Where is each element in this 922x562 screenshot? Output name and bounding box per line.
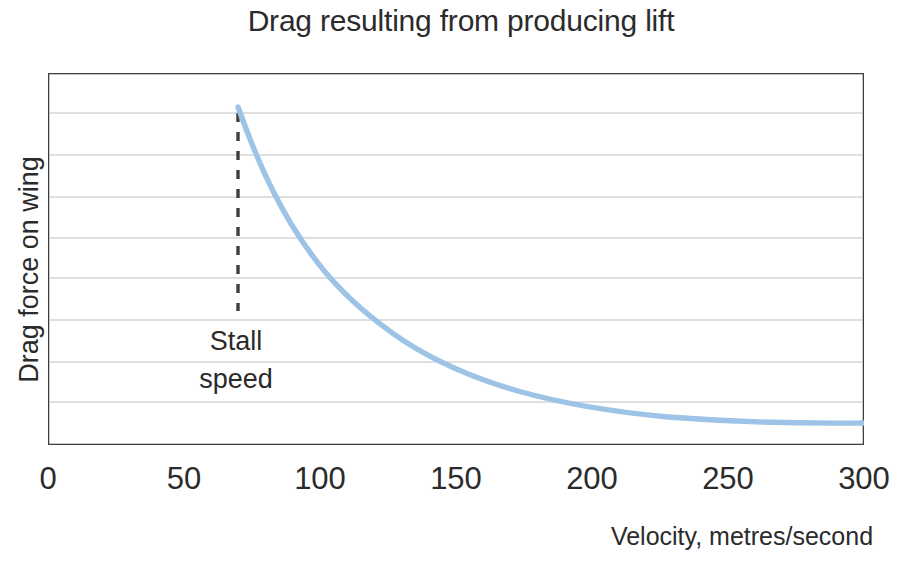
x-tick-label-250: 250 <box>668 461 788 497</box>
x-tick-label-200: 200 <box>532 461 652 497</box>
chart-figure: Drag resulting from producing lift Drag … <box>0 0 922 562</box>
y-axis-title: Drag force on wing <box>14 90 45 450</box>
chart-title: Drag resulting from producing lift <box>0 4 922 38</box>
stall-speed-label-line1: Stall <box>158 322 314 360</box>
stall-speed-label-line2: speed <box>158 360 314 398</box>
stall-speed-annotation: Stall speed <box>158 322 314 399</box>
x-tick-label-100: 100 <box>260 461 380 497</box>
x-tick-label-0: 0 <box>0 461 108 497</box>
x-tick-label-150: 150 <box>396 461 516 497</box>
x-tick-label-300: 300 <box>804 461 922 497</box>
x-tick-label-50: 50 <box>124 461 244 497</box>
x-axis-title: Velocity, metres/second <box>562 522 922 551</box>
